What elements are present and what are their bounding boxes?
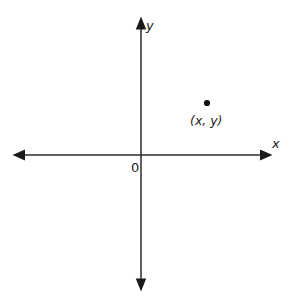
arrow-up-icon [136,17,146,30]
coordinate-plane-figure: y x 0 (x, y) [0,0,288,307]
origin-label: 0 [131,160,139,175]
arrow-left-icon [13,150,26,161]
x-axis-label: x [271,136,280,151]
y-axis-label: y [145,18,154,33]
point-coordinate-label: (x, y) [190,113,223,128]
plotted-point-marker [204,100,210,106]
arrow-down-icon [136,279,146,292]
coordinate-plane-canvas: y x 0 (x, y) [0,0,288,307]
arrow-right-icon [260,150,273,161]
